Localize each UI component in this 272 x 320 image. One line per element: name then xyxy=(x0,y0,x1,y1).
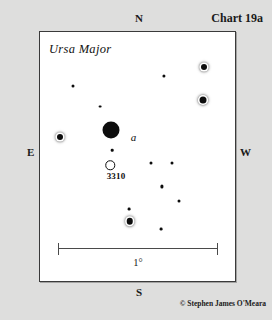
star-chart-page: N S E W Chart 19a © Stephen James O'Mear… xyxy=(0,0,272,320)
scale-bar-line xyxy=(58,248,218,249)
star-marker xyxy=(199,97,206,104)
star-marker xyxy=(178,200,181,203)
star-marker xyxy=(111,149,114,152)
constellation-label: Ursa Major xyxy=(49,42,111,57)
star-marker xyxy=(103,122,120,139)
star-marker xyxy=(72,84,75,87)
cardinal-west-label: W xyxy=(240,147,251,158)
cardinal-south-label: S xyxy=(136,287,142,298)
star-marker xyxy=(160,185,163,188)
star-marker xyxy=(170,161,173,164)
copyright-notice: © Stephen James O'Meara xyxy=(180,300,266,308)
star-marker xyxy=(150,161,153,164)
chart-title: Chart 19a xyxy=(211,12,263,24)
star-marker xyxy=(201,64,207,70)
scale-bar-label: 1° xyxy=(133,257,142,268)
object-designation-label: 3310 xyxy=(107,172,126,181)
star-marker xyxy=(159,227,162,230)
star-marker xyxy=(99,105,102,108)
scale-bar: 1° xyxy=(58,243,218,255)
star-designation-label: a xyxy=(131,131,137,142)
star-marker xyxy=(57,134,63,140)
star-marker xyxy=(162,74,165,77)
chart-field: Ursa Major a3310 1° xyxy=(39,31,236,282)
star-marker xyxy=(127,207,130,210)
star-marker xyxy=(126,218,133,225)
scale-bar-tick-right xyxy=(217,243,218,255)
scale-bar-tick-left xyxy=(58,243,59,255)
cardinal-north-label: N xyxy=(135,13,143,24)
deep-sky-object-marker xyxy=(105,160,115,170)
cardinal-east-label: E xyxy=(27,147,34,158)
